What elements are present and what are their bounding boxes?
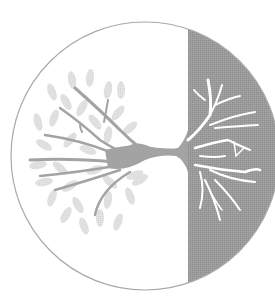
trunk-icon — [105, 130, 188, 172]
tree-emblem-graphic — [0, 0, 275, 297]
root-half-background — [188, 0, 275, 297]
emblem-canvas — [0, 0, 275, 297]
